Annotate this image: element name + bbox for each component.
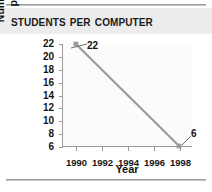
point-annotation-1998: 6 [191, 128, 197, 140]
plot-area: 6810121416182022 19901992199419961998 [62, 44, 192, 147]
leader-line-1 [182, 136, 191, 145]
point-annotation-1990: 22 [87, 40, 98, 52]
x-axis-title: Year [62, 162, 192, 176]
leader-line-0 [71, 44, 87, 48]
bottom-divider-rule [6, 179, 206, 181]
chart-figure: Students per Computer Number of Students… [0, 0, 212, 192]
